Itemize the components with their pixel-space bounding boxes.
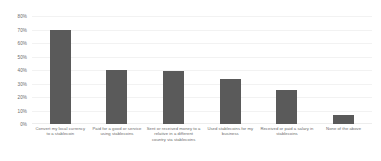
bar-slot-convert-currency (32, 16, 88, 124)
bar-slot-paid-goods-services (89, 16, 145, 124)
bar-paid-goods-services[interactable] (106, 70, 127, 124)
bar-remittance[interactable] (163, 71, 184, 124)
x-label-slot-0: Convert my local currency to a stablecoi… (32, 126, 88, 161)
y-axis-tick-50: 50% (1, 54, 27, 59)
y-axis-tick-80: 80% (1, 14, 27, 19)
x-axis-label-convert-currency: Convert my local currency to a stablecoi… (32, 126, 88, 137)
x-axis-label-none-of-above: None of the above (316, 126, 372, 131)
y-axis-tick-30: 30% (1, 81, 27, 86)
x-axis-label-paid-goods-services: Paid for a good or service using stablec… (89, 126, 145, 137)
y-axis-tick-10: 10% (1, 108, 27, 113)
bar-slot-remittance (146, 16, 202, 124)
y-axis-tick-70: 70% (1, 27, 27, 32)
bar-series (32, 16, 372, 124)
y-axis-tick-60: 60% (1, 41, 27, 46)
x-axis: Convert my local currency to a stablecoi… (32, 126, 372, 161)
x-label-slot-3: Used stablecoins for my business (202, 126, 258, 161)
bar-slot-none-of-above (316, 16, 372, 124)
y-axis: 0% 10% 20% 30% 40% 50% 60% 70% 80% (0, 0, 32, 141)
bar-slot-business-use (202, 16, 258, 124)
y-axis-tick-0: 0% (1, 122, 27, 127)
bar-convert-currency[interactable] (50, 30, 71, 125)
x-label-slot-4: Received or paid a salary in stablecoins (259, 126, 315, 161)
bar-chart: 0% 10% 20% 30% 40% 50% 60% 70% 80% (0, 0, 381, 161)
x-label-slot-2: Sent or received money to a relative in … (146, 126, 202, 161)
x-axis-label-salary: Received or paid a salary in stablecoins (259, 126, 315, 137)
x-label-slot-1: Paid for a good or service using stablec… (89, 126, 145, 161)
y-axis-tick-20: 20% (1, 95, 27, 100)
x-axis-label-remittance: Sent or received money to a relative in … (146, 126, 202, 142)
plot-area (32, 16, 372, 124)
bar-business-use[interactable] (220, 79, 241, 124)
bar-slot-salary (259, 16, 315, 124)
bar-salary[interactable] (276, 90, 297, 124)
x-label-slot-5: None of the above (316, 126, 372, 161)
y-axis-tick-40: 40% (1, 68, 27, 73)
x-axis-label-business-use: Used stablecoins for my business (202, 126, 258, 137)
bar-none-of-above[interactable] (333, 115, 354, 124)
